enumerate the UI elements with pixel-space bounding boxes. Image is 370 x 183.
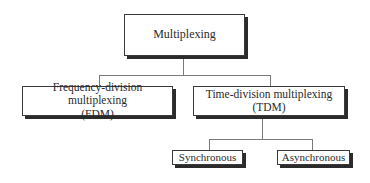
- connector-root-down: [183, 56, 184, 76]
- node-fdm: Frequency-division multiplexing (FDM): [22, 86, 173, 116]
- connector-tdm-down: [262, 116, 263, 139]
- connector-level2-bar: [209, 139, 313, 140]
- node-label: Asynchronous: [282, 151, 346, 164]
- node-label-line2: (TDM): [252, 101, 285, 114]
- node-synchronous: Synchronous: [172, 150, 243, 165]
- node-multiplexing: Multiplexing: [124, 14, 245, 56]
- connector-to-synchronous: [209, 139, 210, 150]
- connector-to-asynchronous: [312, 139, 313, 150]
- node-label-line1: Time-division multiplexing: [206, 88, 332, 101]
- node-tdm: Time-division multiplexing (TDM): [193, 86, 345, 116]
- node-label: Synchronous: [179, 151, 236, 164]
- connector-to-tdm: [270, 75, 271, 86]
- node-label-line2: (FDM): [81, 108, 114, 121]
- node-asynchronous: Asynchronous: [277, 150, 350, 165]
- node-label: Multiplexing: [153, 28, 216, 42]
- connector-level1-bar: [99, 75, 271, 76]
- node-label-line1: Frequency-division multiplexing: [23, 81, 172, 107]
